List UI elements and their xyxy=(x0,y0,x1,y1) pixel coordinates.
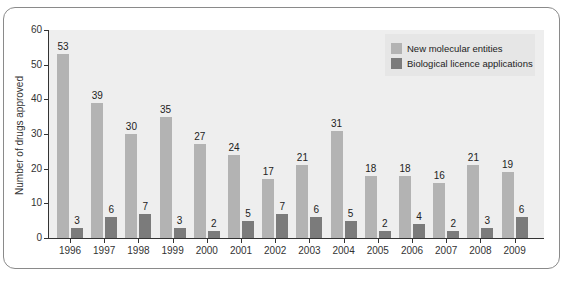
x-tick xyxy=(412,239,413,243)
bar-value-label: 18 xyxy=(393,164,417,174)
bar-value-label: 24 xyxy=(222,143,246,153)
x-tick-label: 1999 xyxy=(155,245,191,256)
bar-value-label: 3 xyxy=(65,216,89,226)
bar-value-label: 3 xyxy=(475,216,499,226)
legend-swatch-nme xyxy=(391,43,402,54)
bar-value-label: 39 xyxy=(85,91,109,101)
x-tick-label: 2004 xyxy=(326,245,362,256)
bar-biological-licence-applications xyxy=(174,228,186,238)
x-tick xyxy=(378,239,379,243)
bar-biological-licence-applications xyxy=(139,214,151,238)
x-tick xyxy=(70,239,71,243)
x-tick xyxy=(309,239,310,243)
bar-value-label: 4 xyxy=(407,212,431,222)
bar-biological-licence-applications xyxy=(105,217,117,238)
y-tick-label: 0 xyxy=(14,233,42,243)
x-tick-label: 1998 xyxy=(120,245,156,256)
bar-value-label: 21 xyxy=(290,153,314,163)
x-tick-label: 2001 xyxy=(223,245,259,256)
bar-value-label: 27 xyxy=(188,132,212,142)
x-tick-label: 1996 xyxy=(52,245,88,256)
bar-new-molecular-entities xyxy=(467,165,479,238)
x-tick-label: 1997 xyxy=(86,245,122,256)
bar-biological-licence-applications xyxy=(481,228,493,238)
y-tick-label: 40 xyxy=(14,94,42,104)
legend-item-nme: New molecular entities xyxy=(391,42,503,54)
bar-new-molecular-entities xyxy=(228,155,240,238)
x-tick xyxy=(344,239,345,243)
y-tick-label: 30 xyxy=(14,129,42,139)
legend: New molecular entities Biological licenc… xyxy=(385,34,535,76)
bar-value-label: 21 xyxy=(461,153,485,163)
x-tick-label: 2007 xyxy=(428,245,464,256)
bar-value-label: 3 xyxy=(168,216,192,226)
x-tick xyxy=(446,239,447,243)
x-tick xyxy=(104,239,105,243)
bar-value-label: 6 xyxy=(99,205,123,215)
bar-biological-licence-applications xyxy=(310,217,322,238)
x-tick-label: 2005 xyxy=(360,245,396,256)
legend-swatch-bla xyxy=(391,58,402,69)
bar-value-label: 30 xyxy=(119,122,143,132)
bar-biological-licence-applications xyxy=(413,224,425,238)
x-tick xyxy=(515,239,516,243)
bar-value-label: 31 xyxy=(325,119,349,129)
bar-new-molecular-entities xyxy=(57,54,69,238)
bar-value-label: 2 xyxy=(373,219,397,229)
x-tick xyxy=(207,239,208,243)
y-tick-label: 10 xyxy=(14,198,42,208)
x-tick xyxy=(480,239,481,243)
bar-biological-licence-applications xyxy=(71,228,83,238)
legend-item-bla: Biological licence applications xyxy=(391,57,533,69)
x-tick-label: 2000 xyxy=(189,245,225,256)
bar-new-molecular-entities xyxy=(125,134,137,238)
bar-value-label: 16 xyxy=(427,171,451,181)
bar-value-label: 7 xyxy=(270,202,294,212)
x-tick-label: 2002 xyxy=(257,245,293,256)
bar-biological-licence-applications xyxy=(276,214,288,238)
bar-new-molecular-entities xyxy=(433,183,445,238)
bar-value-label: 2 xyxy=(202,219,226,229)
bar-new-molecular-entities xyxy=(331,131,343,238)
x-tick-label: 2006 xyxy=(394,245,430,256)
bar-value-label: 19 xyxy=(496,160,520,170)
y-axis-line xyxy=(48,30,49,239)
bar-new-molecular-entities xyxy=(91,103,103,238)
bar-value-label: 6 xyxy=(510,205,534,215)
x-tick-label: 2003 xyxy=(291,245,327,256)
legend-label-bla: Biological licence applications xyxy=(407,58,533,69)
y-tick-label: 50 xyxy=(14,60,42,70)
x-tick xyxy=(138,239,139,243)
y-tick-label: 60 xyxy=(14,25,42,35)
bar-value-label: 5 xyxy=(339,209,363,219)
bar-value-label: 35 xyxy=(154,105,178,115)
bar-value-label: 5 xyxy=(236,209,260,219)
x-tick xyxy=(173,239,174,243)
x-tick xyxy=(275,239,276,243)
bar-value-label: 2 xyxy=(441,219,465,229)
x-axis-line xyxy=(48,238,544,239)
bar-value-label: 17 xyxy=(256,167,280,177)
y-tick-label: 20 xyxy=(14,164,42,174)
bar-value-label: 53 xyxy=(51,42,75,52)
bar-biological-licence-applications xyxy=(516,217,528,238)
bar-value-label: 7 xyxy=(133,202,157,212)
bar-biological-licence-applications xyxy=(447,231,459,238)
bar-biological-licence-applications xyxy=(379,231,391,238)
bar-biological-licence-applications xyxy=(242,221,254,238)
bar-value-label: 18 xyxy=(359,164,383,174)
bar-biological-licence-applications xyxy=(208,231,220,238)
bar-new-molecular-entities xyxy=(399,176,411,238)
bar-new-molecular-entities xyxy=(296,165,308,238)
legend-label-nme: New molecular entities xyxy=(407,43,503,54)
bar-biological-licence-applications xyxy=(345,221,357,238)
x-tick-label: 2008 xyxy=(462,245,498,256)
x-tick-label: 2009 xyxy=(497,245,533,256)
x-tick xyxy=(241,239,242,243)
bar-value-label: 6 xyxy=(304,205,328,215)
